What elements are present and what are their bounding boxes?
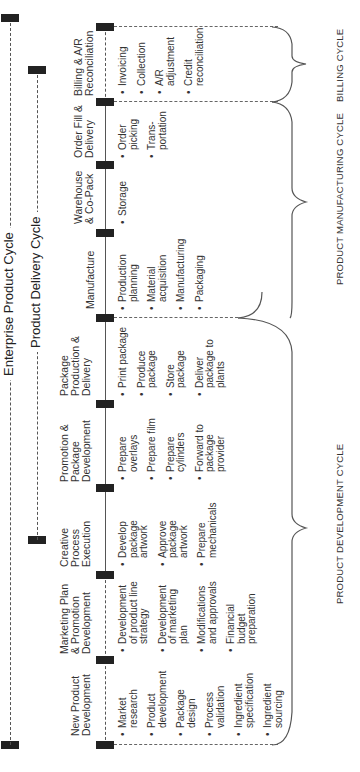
product-cycle-diagram: Enterprise Product Cycle Product Deliver… [0, 0, 360, 772]
phase-label-billing: BILLING CYCLE [334, 29, 345, 102]
phase-label-product-development: PRODUCT DEVELOPMENT CYCLE [334, 444, 345, 604]
brace-product-development [0, 0, 360, 772]
phase-label-product-manufacturing: PRODUCT MANUFACTURING CYCLE [334, 113, 345, 285]
